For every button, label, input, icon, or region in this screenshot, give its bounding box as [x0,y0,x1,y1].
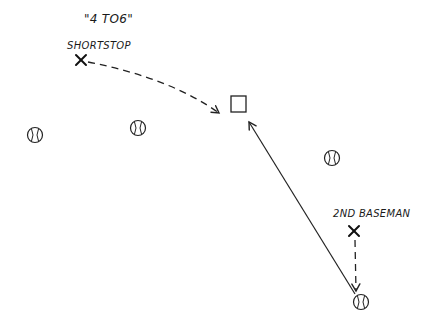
shortstop-label: SHORTSTOP [67,40,131,51]
second-baseman-run-path [355,240,356,291]
diagram-canvas [0,0,438,334]
baseball-icon [325,151,340,166]
baseball-icon [354,295,369,310]
second-base-icon [231,96,246,112]
baseball-icon [131,121,146,136]
second-baseman-x-icon [349,226,359,236]
play-diagram: "4 TO6" SHORTSTOP 2ND BASEMAN [0,0,438,334]
play-title: "4 TO6" [84,12,133,26]
shortstop-run-path [88,62,219,113]
second-baseman-label: 2ND BASEMAN [333,208,410,219]
shortstop-x-icon [76,55,86,65]
baseball-icon [28,128,43,143]
